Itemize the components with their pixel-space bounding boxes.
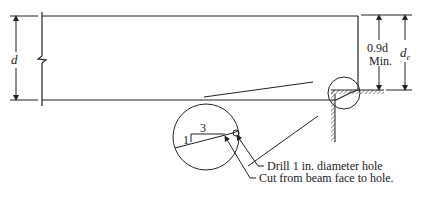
detail-leaders bbox=[204, 82, 318, 166]
beam-outline bbox=[38, 12, 358, 106]
effective-depth-label: de bbox=[400, 45, 411, 62]
slope-rise-label: 1 bbox=[183, 133, 189, 147]
depth-label: d bbox=[11, 52, 18, 67]
cut-callout: Cut from beam face to hole. bbox=[259, 171, 394, 185]
slope-run-label: 3 bbox=[200, 121, 206, 135]
coped-beam-diagram: d 0.9d Min. de 1 3 Drill 1 in. diame bbox=[0, 0, 422, 204]
min-depth-label-line2: Min. bbox=[369, 54, 392, 68]
support bbox=[331, 90, 384, 142]
min-depth-label: 0.9d bbox=[367, 41, 388, 55]
